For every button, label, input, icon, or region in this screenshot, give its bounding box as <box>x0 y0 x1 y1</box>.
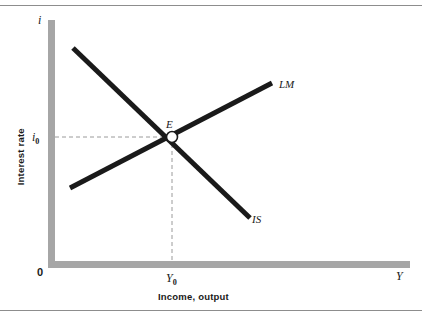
x-axis-symbol-label: Y <box>396 270 403 282</box>
lm-curve-label: LM <box>279 79 294 90</box>
y-axis-symbol-label: i <box>38 14 41 26</box>
x-axis-line <box>48 261 410 268</box>
y-axis-line <box>48 20 55 268</box>
is-lm-figure: i Y 0 i0 Y0 Interest rate Income, output… <box>0 0 422 321</box>
equilibrium-point-label: E <box>166 119 173 130</box>
is-curve[interactable] <box>73 48 250 218</box>
y-axis-title: Interest rate <box>16 114 26 200</box>
x-tick-base: Y <box>166 271 173 285</box>
x-tick-label-y0: Y0 <box>166 272 177 284</box>
is-curve-label: IS <box>252 214 261 225</box>
x-tick-subscript: 0 <box>173 278 177 287</box>
y-tick-label-i0: i0 <box>32 131 39 143</box>
x-axis-title: Income, output <box>158 292 229 302</box>
equilibrium-point-marker[interactable] <box>167 132 178 143</box>
y-tick-subscript: 0 <box>35 137 39 146</box>
plot-area <box>0 0 422 321</box>
origin-label: 0 <box>37 267 43 278</box>
